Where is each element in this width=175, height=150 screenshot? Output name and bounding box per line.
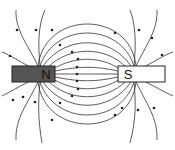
magnetic-field-diagram: N S bbox=[0, 0, 175, 150]
inner-field-line bbox=[38, 82, 136, 124]
inner-field-line bbox=[40, 33, 134, 66]
arrow-icon bbox=[138, 29, 141, 32]
arrow-icon bbox=[76, 73, 79, 76]
arrow-icon bbox=[71, 51, 74, 54]
arrow-icon bbox=[137, 109, 140, 112]
arrow-icon bbox=[59, 44, 62, 47]
arrow-icon bbox=[16, 29, 19, 32]
inner-field-line bbox=[55, 77, 118, 81]
arrow-icon bbox=[77, 58, 80, 61]
outer-field-line bbox=[16, 82, 38, 140]
outer-field-line bbox=[16, 10, 38, 66]
arrow-icon bbox=[51, 119, 54, 122]
arrow-icon bbox=[121, 107, 124, 110]
arrow-icon bbox=[76, 80, 79, 83]
arrow-icon bbox=[22, 96, 25, 99]
arrow-icon bbox=[151, 37, 154, 40]
inner-field-line bbox=[40, 82, 134, 115]
arrow-icon bbox=[71, 95, 74, 98]
outer-field-line bbox=[136, 82, 157, 140]
arrow-icon bbox=[12, 99, 15, 102]
inner-field-line bbox=[43, 82, 131, 105]
arrow-icon bbox=[76, 66, 79, 69]
arrow-icon bbox=[34, 101, 37, 104]
arrow-icon bbox=[35, 29, 38, 32]
outer-field-line bbox=[136, 10, 157, 66]
inner-field-line bbox=[55, 67, 118, 71]
arrow-icon bbox=[77, 88, 80, 91]
north-pole-label: N bbox=[41, 67, 50, 82]
inner-field-line bbox=[43, 43, 131, 66]
arrow-icon bbox=[51, 29, 54, 32]
arrow-icon bbox=[153, 107, 156, 110]
arrow-icon bbox=[59, 102, 62, 105]
outer-field-line bbox=[130, 82, 135, 143]
arrow-icon bbox=[9, 55, 12, 58]
arrow-icon bbox=[161, 54, 164, 57]
south-pole-label: S bbox=[124, 67, 133, 82]
